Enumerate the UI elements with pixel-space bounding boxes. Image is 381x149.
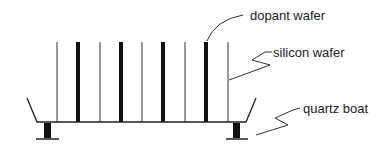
wafer-boat-diagram: dopant wafer silicon wafer quartz boat	[0, 0, 381, 149]
silicon-wafer-label: silicon wafer	[273, 45, 345, 60]
boat-foot-right	[233, 123, 240, 138]
boat-foot-left	[44, 123, 51, 138]
quartz-leader-line	[256, 108, 300, 135]
silicon-leader-line	[229, 52, 272, 80]
quartz-boat-label: quartz boat	[303, 101, 368, 116]
wafer-stack	[57, 42, 228, 122]
dopant-wafer-label: dopant wafer	[250, 8, 326, 23]
dopant-leader-line	[207, 15, 243, 41]
